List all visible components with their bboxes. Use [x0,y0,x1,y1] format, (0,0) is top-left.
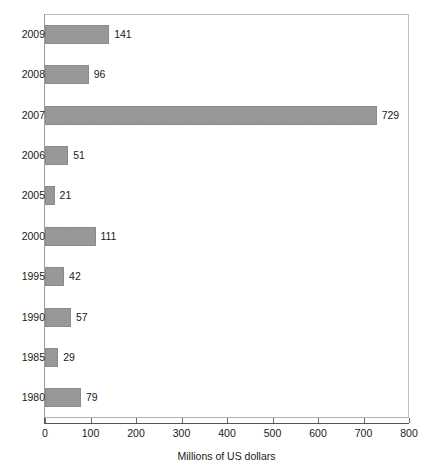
category-label: 2006 [22,148,45,163]
bar [45,186,55,205]
bar [45,308,71,327]
bar-row: 198529 [0,348,432,367]
bar-row: 200896 [0,65,432,84]
bar-value-label: 57 [76,310,88,325]
x-axis-tick [273,418,274,423]
category-label: 2005 [22,188,45,203]
bar [45,227,96,246]
category-label: 1980 [22,390,45,405]
bar [45,65,89,84]
x-axis-tick [182,418,183,423]
bar [45,106,377,125]
bar-value-label: 96 [94,67,106,82]
x-axis-tick [45,418,46,423]
category-label: 2008 [22,67,45,82]
category-label: 1995 [22,269,45,284]
bar-value-label: 729 [382,108,400,123]
category-label: 2009 [22,27,45,42]
bar [45,267,64,286]
x-axis-tick [91,418,92,423]
x-axis-tick [136,418,137,423]
category-label: 2007 [22,108,45,123]
bar-value-label: 79 [86,390,98,405]
x-axis-tick-label: 700 [355,426,373,440]
x-axis-tick-label: 600 [309,426,327,440]
x-axis-tick-label: 500 [264,426,282,440]
bar [45,146,68,165]
x-axis-tick-label: 100 [82,426,100,440]
x-axis-tick-label: 200 [127,426,145,440]
bar-row: 2007729 [0,106,432,125]
bar-value-label: 141 [114,27,132,42]
x-axis-tick-label: 300 [173,426,191,440]
bar [45,388,81,407]
x-axis-tick [409,418,410,423]
bar-row: 200521 [0,186,432,205]
x-axis-tick [227,418,228,423]
x-axis-tick [318,418,319,423]
bar-row: 2009141 [0,25,432,44]
bar-value-label: 111 [101,229,117,244]
x-axis-tick [364,418,365,423]
category-label: 1985 [22,350,45,365]
bar-value-label: 29 [63,350,75,365]
bar-row: 199542 [0,267,432,286]
bar-value-label: 51 [73,148,85,163]
bar [45,25,109,44]
bar-row: 2000111 [0,227,432,246]
bar-row: 199057 [0,308,432,327]
bars-layer: 2009141200896200772920065120052120001111… [0,0,432,475]
category-label: 2000 [22,229,45,244]
bar-value-label: 42 [69,269,81,284]
x-axis-tick-label: 0 [42,426,48,440]
bar-row: 200651 [0,146,432,165]
bar-row: 198079 [0,388,432,407]
bar [45,348,58,367]
x-axis-tick-label: 400 [218,426,236,440]
x-axis-tick-label: 800 [400,426,418,440]
x-axis-title: Millions of US dollars [44,449,409,463]
bar-chart: 2009141200896200772920065120052120001111… [0,0,432,475]
category-label: 1990 [22,310,45,325]
bar-value-label: 21 [60,188,72,203]
